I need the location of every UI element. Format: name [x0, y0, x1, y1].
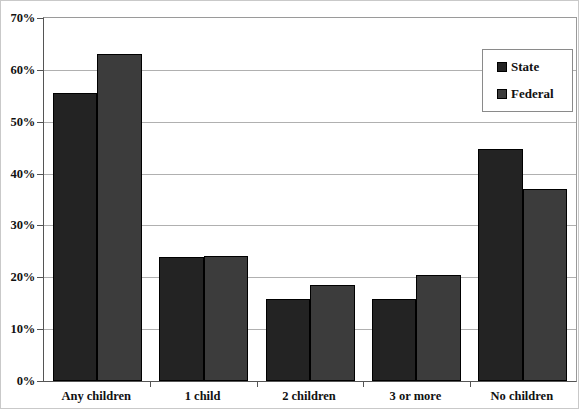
y-axis-tick-label: 50% [11, 114, 35, 129]
y-tick-mark [37, 122, 44, 123]
x-axis-tick-label: Any children [61, 389, 131, 404]
y-axis-tick-label: 40% [11, 166, 35, 181]
chart-legend: State Federal [482, 49, 573, 112]
x-axis-tick-label: 3 or more [390, 389, 442, 404]
y-tick-mark [37, 174, 44, 175]
legend-item-federal: Federal [497, 86, 572, 102]
y-tick-mark [37, 329, 44, 330]
y-tick-mark [37, 70, 44, 71]
bar-federal [310, 285, 355, 381]
x-axis-tick-label: 2 children [282, 389, 336, 404]
plot-area: 0%10%20%30%40%50%60%70% State Federal [43, 17, 577, 382]
y-tick-mark [37, 18, 44, 19]
legend-swatch-state-icon [497, 62, 507, 72]
bar-chart: 0%10%20%30%40%50%60%70% State Federal An… [0, 0, 579, 409]
bar-state [266, 299, 311, 381]
x-tick-mark [257, 381, 258, 387]
y-tick-mark [37, 381, 44, 382]
x-axis-tick-label: No children [490, 389, 553, 404]
bar-federal [416, 275, 461, 381]
y-tick-mark [37, 225, 44, 226]
legend-label-federal: Federal [511, 86, 554, 102]
y-axis-tick-label: 30% [11, 218, 35, 233]
bar-federal [204, 256, 249, 381]
y-axis-tick-label: 70% [11, 11, 35, 26]
bar-state [159, 257, 204, 381]
bar-state [53, 93, 98, 381]
x-tick-mark [363, 381, 364, 387]
x-tick-mark [150, 381, 151, 387]
bar-state [478, 149, 523, 381]
bar-state [372, 299, 417, 381]
legend-label-state: State [511, 59, 539, 75]
y-axis-tick-label: 0% [17, 374, 35, 389]
legend-item-state: State [497, 59, 572, 75]
y-axis-tick-label: 10% [11, 322, 35, 337]
x-tick-mark [470, 381, 471, 387]
y-tick-mark [37, 277, 44, 278]
x-axis-tick-label: 1 child [185, 389, 221, 404]
y-axis-tick-label: 60% [11, 62, 35, 77]
y-axis-tick-label: 20% [11, 270, 35, 285]
bar-federal [523, 189, 568, 381]
bar-federal [97, 54, 142, 381]
legend-swatch-federal-icon [497, 89, 507, 99]
